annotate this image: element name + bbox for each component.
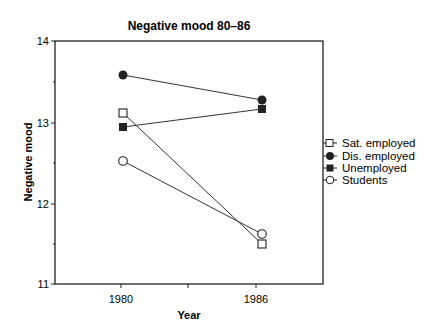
legend-item-sat-employed: Sat. employed [323,137,416,149]
marker-dis-employed-1980 [119,71,128,80]
y-tick-13: 13 [37,117,49,129]
legend-item-students: Students [323,174,388,186]
chart-title: Negative mood 80–86 [128,19,251,33]
x-tick-1986: 1986 [244,293,268,305]
y-axis-label: Negative mood [22,123,34,202]
y-tick-14: 14 [37,35,49,47]
x-axis-label: Year [177,309,201,321]
legend-label: Sat. employed [342,137,416,149]
x-axis: 1980 1986 Year [109,284,268,321]
line-dis-employed [123,75,262,100]
marker-students-1986 [258,230,267,239]
legend-item-dis-employed: Dis. employed [323,150,415,162]
marker-dis-employed-1986 [258,96,267,105]
plot-frame [55,41,323,284]
marker-unemployed-1986 [258,105,266,113]
line-students [123,161,262,234]
marker-sat-employed-1980 [119,109,127,117]
x-tick-1980: 1980 [109,293,133,305]
legend-label: Unemployed [342,162,407,174]
y-tick-11: 11 [38,278,49,290]
legend: Sat. employed Dis. employed Unemployed S… [323,137,416,186]
marker-unemployed-1980 [119,123,127,131]
line-sat-employed [123,113,262,244]
legend-label: Dis. employed [342,150,415,162]
legend-item-unemployed: Unemployed [323,162,407,174]
line-unemployed [123,109,262,127]
y-tick-12: 12 [37,198,49,210]
y-axis: 14 13 12 11 Negative mood [22,35,55,290]
marker-students-1980 [119,157,128,166]
line-chart: Negative mood 80–86 14 13 12 11 Negative… [0,0,438,333]
marker-sat-employed-1986 [258,240,266,248]
series-lines [123,75,262,244]
legend-label: Students [342,174,388,186]
